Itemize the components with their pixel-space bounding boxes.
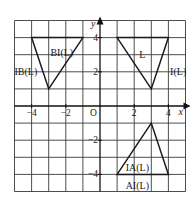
- y-axis-label: y: [90, 18, 96, 29]
- label-ai-l: AI(L): [126, 180, 149, 192]
- x-tick-label: −2: [61, 108, 71, 118]
- x-tick-label: 2: [132, 108, 137, 118]
- origin-label: O: [90, 108, 97, 118]
- label-bi-l: BI(L): [50, 47, 73, 59]
- label-ib-l: IB(L): [15, 66, 38, 78]
- y-tick-label: −4: [88, 169, 98, 179]
- x-tick-label: −4: [27, 108, 37, 118]
- axes: x y O: [15, 17, 191, 192]
- triangle-l: [117, 38, 168, 89]
- y-tick-label: −2: [88, 135, 98, 145]
- label-i-l: I(L): [170, 66, 186, 78]
- y-tick-label: 4: [93, 33, 98, 43]
- x-tick-label: 4: [166, 108, 171, 118]
- label-ia-l: IA(L): [126, 162, 149, 174]
- triangle-bi-l: [32, 38, 83, 89]
- coordinate-diagram: x y O −4−22442−2−4 LI(L)BI(L)IB(L)IA(L)A…: [0, 0, 195, 207]
- x-axis-label: x: [178, 106, 184, 117]
- x-axis-arrow-icon: [184, 103, 191, 110]
- label-l: L: [139, 49, 145, 60]
- y-tick-label: 2: [93, 67, 98, 77]
